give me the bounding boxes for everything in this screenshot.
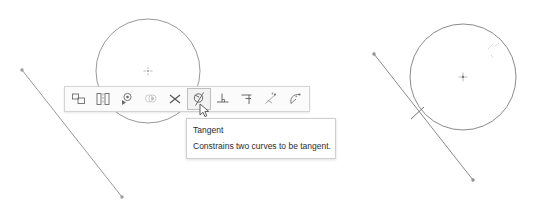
sketch-after-constraint[interactable] (372, 24, 516, 182)
parallel-constraint-icon (239, 92, 255, 106)
perpendicular-constraint-icon (215, 92, 231, 106)
coincident-constraint-icon (143, 92, 159, 106)
line-endpoint-end-before[interactable] (120, 195, 123, 198)
toolbar-button-parallel[interactable] (235, 88, 259, 110)
toolbar-button-delete[interactable] (163, 88, 187, 110)
toolbar-button-curvature[interactable] (283, 88, 307, 110)
circle-center-point-before[interactable] (147, 70, 149, 72)
line-endpoint-start-before[interactable] (20, 68, 23, 71)
toolbar-button-coincident[interactable] (139, 88, 163, 110)
circle-center-point-after[interactable] (462, 76, 465, 79)
line-after[interactable] (374, 54, 473, 180)
toolbar-button-equal[interactable] (67, 88, 91, 110)
toolbar-button-perpendicular[interactable] (211, 88, 235, 110)
line-endpoint-end-after[interactable] (471, 178, 474, 181)
constraint-toolbar[interactable] (64, 86, 310, 112)
toolbar-button-concentric[interactable] (115, 88, 139, 110)
line-endpoint-start-after[interactable] (372, 52, 375, 55)
tooltip-title: Tangent (193, 124, 329, 136)
toolbar-button-midpoint[interactable] (259, 88, 283, 110)
tangent-tooltip: Tangent Constrains two curves to be tang… (186, 118, 336, 159)
tangent-constraint-glyph[interactable] (488, 43, 499, 58)
symmetric-constraint-icon (95, 92, 111, 106)
midpoint-constraint-icon (263, 92, 279, 106)
curvature-constraint-icon (287, 92, 303, 106)
equal-constraint-icon (71, 92, 87, 106)
tooltip-description: Constrains two curves to be tangent. (193, 140, 329, 152)
toolbar-button-symmetric[interactable] (91, 88, 115, 110)
mouse-pointer-cursor (199, 103, 211, 119)
delete-constraint-icon (167, 92, 183, 106)
sketch-canvas[interactable]: Tangent Constrains two curves to be tang… (0, 0, 546, 208)
concentric-constraint-icon (119, 92, 135, 106)
